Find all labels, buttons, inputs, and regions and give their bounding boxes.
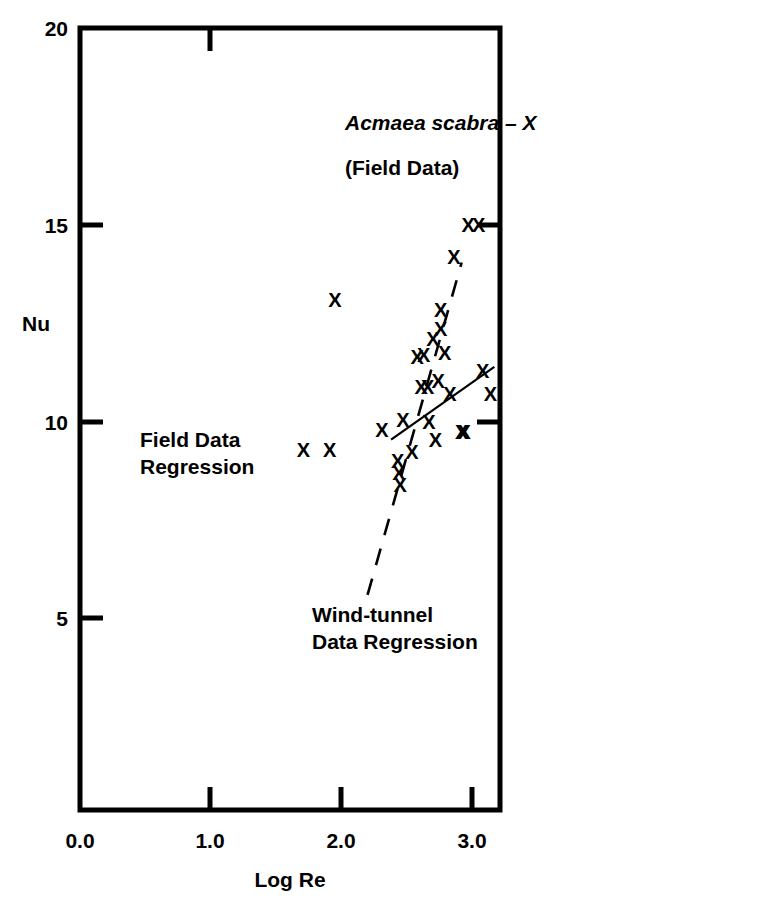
chart-figure: 20 15 10 5 0.0 1.0 2.0 3.0 Nu Log Re Acm… (0, 0, 757, 902)
data-point-marker: X (443, 383, 457, 405)
x-axis-tick-labels: 0.0 1.0 2.0 3.0 (65, 829, 486, 852)
axes-frame-path (80, 28, 500, 810)
field-regression-label-line2: Regression (140, 455, 254, 478)
data-point-marker: X (472, 214, 486, 236)
y-tick-label-20: 20 (45, 17, 68, 40)
data-point-marker: X (458, 421, 472, 443)
data-point-marker: X (476, 360, 490, 382)
plot-frame (80, 28, 500, 810)
y-tick-label-5: 5 (56, 607, 68, 630)
data-point-marker: X (394, 474, 408, 496)
data-point-marker: X (328, 289, 342, 311)
data-point-marker: X (396, 409, 410, 431)
scatter-marker-group: XXXXXXXXXXXXXXXXXXXXXXXXXXXX (297, 214, 498, 496)
data-point-marker: X (447, 246, 461, 268)
x-tick-label-0: 0.0 (65, 829, 94, 852)
field-regression-label-line1: Field Data (140, 428, 241, 451)
wind-regression-label-line1: Wind-tunnel (312, 603, 433, 626)
species-sub-label: (Field Data) (345, 156, 459, 179)
data-point-marker: X (484, 383, 498, 405)
data-point-marker: X (405, 441, 419, 463)
y-axis-ticks (80, 225, 500, 618)
data-point-marker: X (297, 439, 311, 461)
y-tick-label-10: 10 (45, 411, 68, 434)
wind-regression-label-line2: Data Regression (312, 630, 478, 653)
species-label: Acmaea scabra – X (344, 111, 538, 134)
y-tick-label-15: 15 (45, 214, 69, 237)
x-tick-label-3: 3.0 (457, 829, 486, 852)
x-axis-title: Log Re (254, 868, 325, 891)
x-tick-label-2: 2.0 (326, 829, 355, 852)
scatter-plot-svg: 20 15 10 5 0.0 1.0 2.0 3.0 Nu Log Re Acm… (0, 0, 757, 902)
x-tick-label-1: 1.0 (195, 829, 224, 852)
y-axis-title: Nu (22, 312, 50, 335)
data-point-marker: X (434, 318, 448, 340)
data-point-marker: X (434, 299, 448, 321)
data-point-marker: X (323, 439, 337, 461)
data-point-marker: X (375, 419, 389, 441)
data-point-marker: X (429, 429, 443, 451)
data-point-marker: X (438, 342, 452, 364)
